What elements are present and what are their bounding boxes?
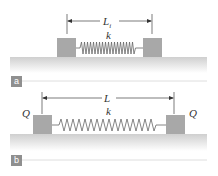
panel-a: Li k a [0, 0, 218, 88]
panel-tag-b: b [11, 155, 22, 166]
block-left [57, 38, 76, 57]
spring-diagram-a [0, 0, 218, 88]
surface [10, 134, 207, 151]
charge-label-left: Q [22, 107, 30, 119]
spring-constant-label-a: k [106, 29, 111, 41]
charge-label-right: Q [189, 107, 197, 119]
block-left [33, 115, 52, 134]
block-right [166, 115, 185, 134]
block-right [143, 38, 162, 57]
surface [10, 57, 207, 73]
panel-b: L k Q Q b [0, 88, 218, 176]
length-label-b: L [104, 92, 110, 104]
panel-tag-a: a [11, 76, 22, 87]
spring-constant-label-b: k [106, 105, 111, 117]
